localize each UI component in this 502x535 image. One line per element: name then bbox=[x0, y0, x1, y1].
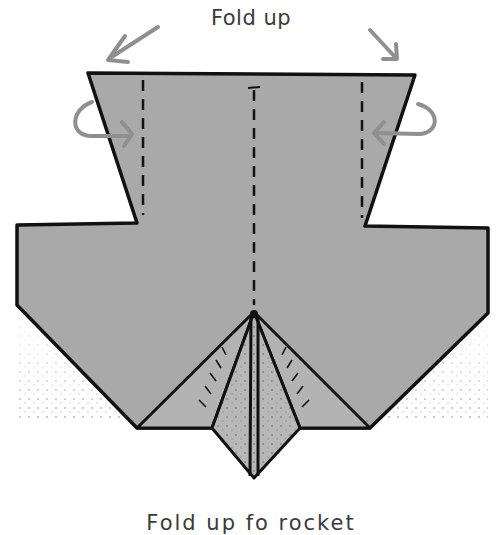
left-fold-up-arrow bbox=[108, 27, 158, 62]
right-fold-up-arrow bbox=[370, 30, 397, 59]
instruction-caption: Fold up fo rocket bbox=[0, 511, 502, 535]
center-tick bbox=[248, 87, 260, 88]
